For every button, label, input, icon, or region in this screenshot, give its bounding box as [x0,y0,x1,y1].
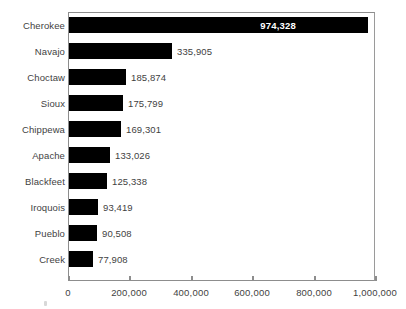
bar-row: Creek 77,908 [0,246,406,272]
category-label: Apache [32,150,65,161]
bar-row: Cherokee 974,328 [0,12,406,38]
category-label: Choctaw [27,72,65,83]
x-axis-tick [314,276,316,281]
bar [69,69,126,85]
category-label: Navajo [35,46,65,57]
x-axis-tick-label: 800,000 [296,287,332,298]
category-label: Cherokee [23,20,65,31]
x-axis-tick [191,276,193,281]
bar [69,225,97,241]
category-label: Iroquois [30,202,65,213]
x-axis-tick [375,276,377,281]
x-axis-tick [129,276,131,281]
bar [69,95,123,111]
bar [69,173,107,189]
value-label: 974,328 [260,20,296,31]
value-label: 335,905 [177,46,212,57]
bar-row: Navajo 335,905 [0,38,406,64]
x-axis-tick-label: 400,000 [173,287,209,298]
value-label: 169,301 [126,124,161,135]
bar-row: Blackfeet 125,338 [0,168,406,194]
bar-row: Iroquois 93,419 [0,194,406,220]
category-label: Sioux [41,98,65,109]
x-axis-tick-label: 600,000 [234,287,270,298]
category-label: Pueblo [35,228,65,239]
value-label: 185,874 [131,72,166,83]
x-axis: 0 200,000 400,000 600,000 800,000 1,000,… [0,281,406,309]
scan-artifact [44,301,47,306]
value-label: 93,419 [103,202,133,213]
category-label: Creek [39,254,65,265]
value-label: 90,508 [102,228,132,239]
value-label: 77,908 [98,254,128,265]
bar-row: Chippewa 169,301 [0,116,406,142]
value-label: 125,338 [112,176,147,187]
bar [69,121,121,137]
bar-row: Pueblo 90,508 [0,220,406,246]
x-axis-tick [68,276,70,281]
bar [69,147,110,163]
value-label: 175,799 [128,98,163,109]
bar-rows: Cherokee 974,328 Navajo 335,905 Choctaw … [0,12,406,281]
bar [69,199,98,215]
bar-row: Sioux 175,799 [0,90,406,116]
value-label: 133,026 [115,150,150,161]
bar [69,17,368,33]
bar-chart: Cherokee 974,328 Navajo 335,905 Choctaw … [0,0,406,309]
x-axis-tick-label: 1,000,000 [353,287,397,298]
bar [69,43,172,59]
x-axis-tick [252,276,254,281]
bar [69,251,93,267]
x-axis-tick-label: 0 [65,287,70,298]
bar-row: Apache 133,026 [0,142,406,168]
category-label: Chippewa [22,124,65,135]
x-axis-tick-label: 200,000 [111,287,147,298]
bar-row: Choctaw 185,874 [0,64,406,90]
category-label: Blackfeet [25,176,65,187]
